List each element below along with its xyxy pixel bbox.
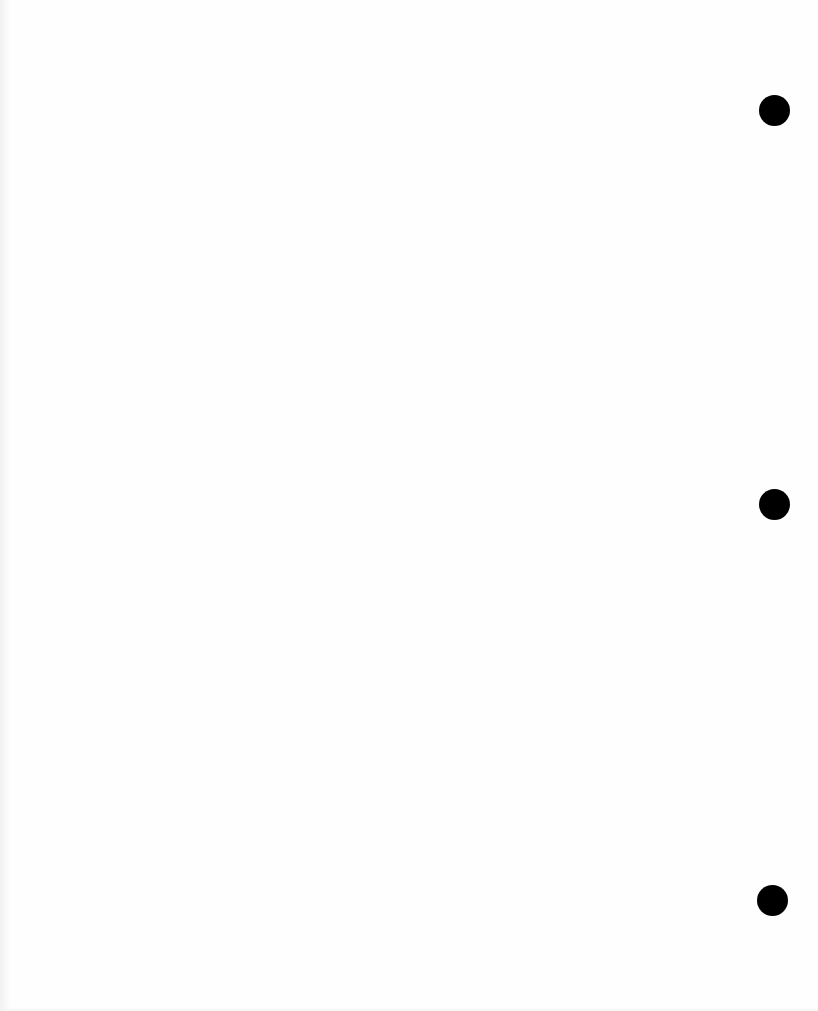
punch-hole-top bbox=[759, 95, 790, 126]
left-edge-shadow bbox=[0, 0, 10, 1011]
blank-document-page bbox=[0, 0, 818, 1011]
punch-hole-middle bbox=[759, 489, 790, 520]
bottom-edge-shadow bbox=[0, 1007, 818, 1011]
punch-hole-bottom bbox=[757, 885, 788, 916]
